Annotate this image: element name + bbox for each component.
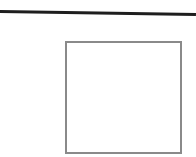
empty-square-frame <box>65 41 182 154</box>
horizontal-divider-line <box>0 10 196 16</box>
